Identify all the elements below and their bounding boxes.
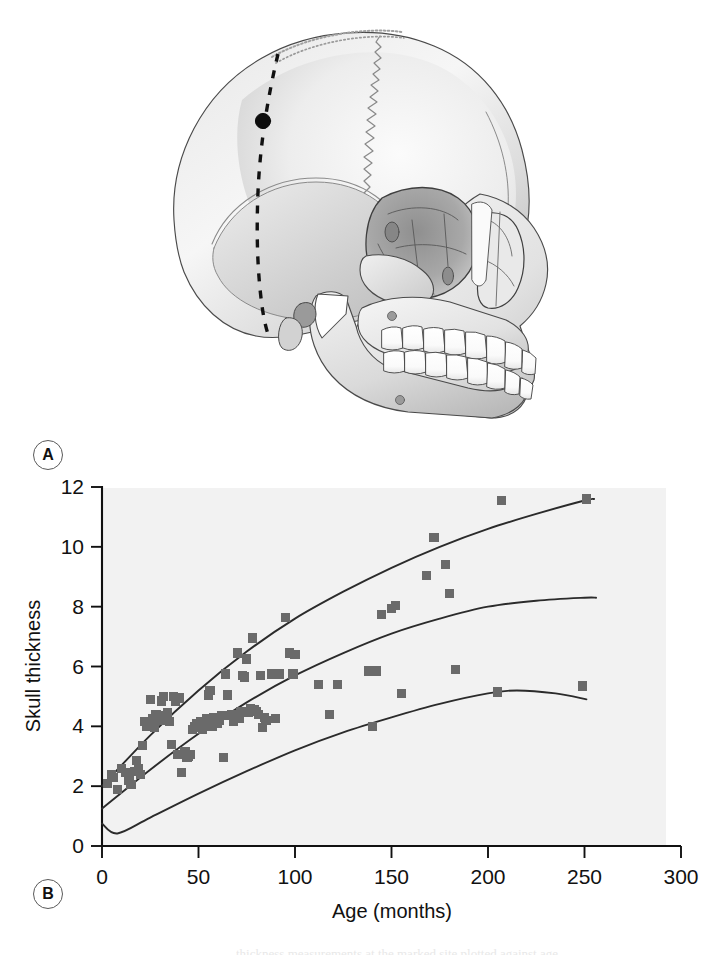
measurement-site-dot xyxy=(255,113,270,128)
data-point xyxy=(441,560,450,569)
data-point xyxy=(377,610,386,619)
plot-background xyxy=(103,488,666,846)
maxilla-foramen xyxy=(388,312,397,321)
data-point xyxy=(159,692,168,701)
y-tick-label-10: 10 xyxy=(61,535,84,558)
x-tick-label-150: 150 xyxy=(374,865,409,888)
data-point xyxy=(165,717,174,726)
data-point xyxy=(177,768,186,777)
data-point xyxy=(582,494,591,503)
data-point xyxy=(146,695,155,704)
data-point xyxy=(314,680,323,689)
data-point xyxy=(163,708,172,717)
data-point xyxy=(275,669,284,678)
y-axis-title: Skull thickness xyxy=(22,600,44,732)
x-tick-label-50: 50 xyxy=(187,865,210,888)
data-point xyxy=(271,714,280,723)
data-point xyxy=(126,780,135,789)
data-point xyxy=(397,689,406,698)
data-point xyxy=(429,533,438,542)
data-point xyxy=(290,650,299,659)
data-point xyxy=(223,690,232,699)
data-point xyxy=(493,687,502,696)
figure-caption-sliver: thickness measurements at the marked sit… xyxy=(236,941,706,955)
x-tick-label-100: 100 xyxy=(277,865,312,888)
panel-b-scatter-chart: 024681012 050100150200250300 Skull thick… xyxy=(0,470,714,957)
panel-a-skull-illustration xyxy=(0,0,714,470)
x-tick-label-300: 300 xyxy=(663,865,698,888)
data-point xyxy=(242,654,251,663)
skull-thickness-vs-age-chart: 024681012 050100150200250300 Skull thick… xyxy=(0,470,714,957)
data-point xyxy=(138,741,147,750)
data-point xyxy=(333,680,342,689)
mental-foramen xyxy=(396,396,405,405)
x-tick-label-200: 200 xyxy=(470,865,505,888)
data-point xyxy=(497,496,506,505)
data-point xyxy=(261,716,270,725)
data-point xyxy=(451,665,460,674)
data-point xyxy=(186,750,195,759)
data-point xyxy=(248,633,257,642)
x-axis-ticks: 050100150200250300 xyxy=(96,846,698,888)
data-point xyxy=(205,686,214,695)
data-point xyxy=(167,740,176,749)
figure-container: A 024681012 050100150200250300 Skull thi… xyxy=(0,0,714,957)
data-point xyxy=(240,672,249,681)
x-tick-label-250: 250 xyxy=(567,865,602,888)
data-point xyxy=(578,681,587,690)
panel-label-b: B xyxy=(33,879,63,909)
skull-drawing xyxy=(150,8,580,428)
data-point xyxy=(391,601,400,610)
data-point xyxy=(281,613,290,622)
data-point xyxy=(256,671,265,680)
mastoid-process xyxy=(279,318,303,351)
y-tick-label-4: 4 xyxy=(72,714,84,737)
infraorbital-foramen xyxy=(443,267,454,285)
y-tick-label-0: 0 xyxy=(72,834,84,857)
data-point xyxy=(136,770,145,779)
panel-label-a: A xyxy=(33,440,63,470)
data-point xyxy=(422,571,431,580)
data-point xyxy=(445,589,454,598)
y-tick-label-12: 12 xyxy=(61,475,84,498)
y-tick-label-2: 2 xyxy=(72,774,84,797)
data-point xyxy=(233,648,242,657)
y-axis-ticks: 024681012 xyxy=(61,475,102,857)
data-point xyxy=(219,753,228,762)
data-point xyxy=(113,785,122,794)
y-tick-label-6: 6 xyxy=(72,655,84,678)
data-point xyxy=(175,693,184,702)
data-point xyxy=(325,710,334,719)
x-tick-label-0: 0 xyxy=(96,865,108,888)
data-point xyxy=(368,722,377,731)
data-point xyxy=(221,669,230,678)
y-tick-label-8: 8 xyxy=(72,595,84,618)
data-point xyxy=(288,669,297,678)
data-point xyxy=(371,666,380,675)
optic-foramen xyxy=(385,222,399,242)
x-axis-title: Age (months) xyxy=(332,900,452,922)
data-point xyxy=(109,773,118,782)
